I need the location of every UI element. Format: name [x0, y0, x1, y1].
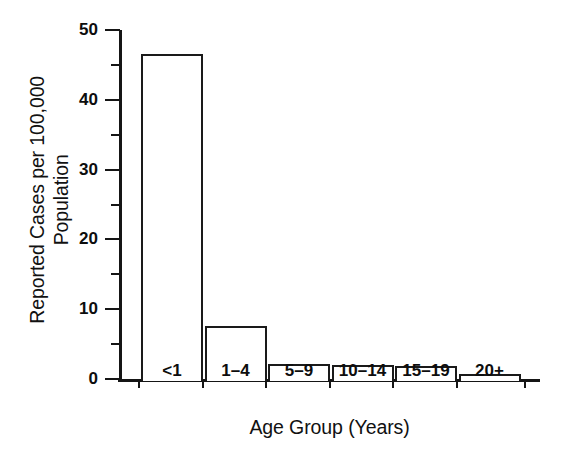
x-tick-label: 15–19: [395, 361, 457, 381]
y-axis-title: Reported Cases per 100,000 Population: [0, 0, 100, 400]
y-tick-minor: [111, 134, 120, 136]
y-tick-label: 10: [79, 299, 98, 319]
y-tick-major: 50: [105, 29, 120, 31]
y-tick-major: 0: [105, 378, 120, 380]
y-tick-label: 30: [79, 160, 98, 180]
x-axis-title: Age Group (Years): [119, 416, 540, 439]
y-tick-major: 20: [105, 238, 120, 240]
y-tick-major: 10: [105, 308, 120, 310]
x-tick-label: 1–4: [205, 361, 267, 381]
y-tick-minor: [111, 204, 120, 206]
plot-area: 01020304050: [119, 30, 540, 379]
y-tick-major: 40: [105, 99, 120, 101]
bar-chart-figure: Reported Cases per 100,000 Population 01…: [0, 0, 563, 459]
y-axis-title-line2: Population: [50, 76, 74, 324]
x-tick-label: 5–9: [268, 361, 330, 381]
bar: [141, 54, 203, 381]
x-tick: [138, 379, 140, 388]
x-tick-label: <1: [141, 361, 203, 381]
y-axis-title-line1: Reported Cases per 100,000: [26, 76, 50, 324]
y-tick-label: 20: [79, 229, 98, 249]
y-tick-label: 40: [79, 90, 98, 110]
y-tick-label: 0: [89, 369, 98, 389]
y-tick-minor: [111, 64, 120, 66]
y-tick-minor: [111, 343, 120, 345]
y-tick-minor: [111, 273, 120, 275]
x-tick-label: 10–14: [332, 361, 394, 381]
x-tick: [524, 379, 526, 388]
y-tick-label: 50: [79, 20, 98, 40]
y-tick-major: 30: [105, 169, 120, 171]
x-tick-label: 20+: [459, 361, 521, 381]
